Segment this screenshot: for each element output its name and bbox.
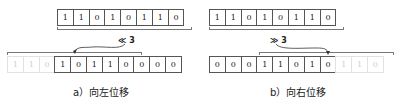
right-arrowhead-icon <box>326 51 330 55</box>
left-arrowhead-icon <box>73 49 77 54</box>
shift-arrows <box>0 0 396 101</box>
left-shift-arrow-icon <box>75 44 125 51</box>
right-shift-arrow-icon <box>276 44 328 52</box>
